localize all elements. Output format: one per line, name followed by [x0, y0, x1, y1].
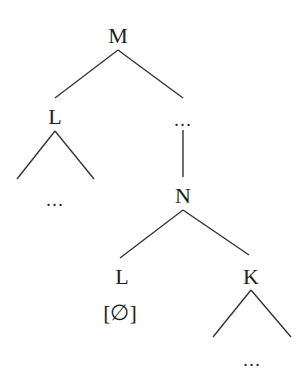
triangle-l-right	[55, 131, 94, 179]
tree-edges	[0, 0, 305, 373]
triangle-k-right	[251, 290, 291, 337]
syntax-tree-diagram: M L … … N L [∅] K …	[0, 0, 305, 373]
node-k: K	[243, 266, 259, 288]
edge-m-l	[55, 50, 118, 98]
triangle-k-left	[213, 290, 251, 337]
node-k-ellipsis: …	[243, 351, 262, 369]
edge-m-ellipsis	[118, 50, 183, 98]
node-n-l: L	[115, 266, 128, 288]
node-l-ellipsis: …	[46, 191, 65, 209]
triangle-l-left	[17, 131, 55, 179]
node-empty-feature: [∅]	[103, 302, 137, 324]
node-l: L	[48, 106, 61, 128]
edge-n-l	[120, 210, 183, 258]
edge-n-k	[183, 210, 249, 255]
node-m: M	[108, 25, 128, 47]
node-n: N	[175, 185, 191, 207]
node-ellipsis: …	[174, 111, 193, 129]
